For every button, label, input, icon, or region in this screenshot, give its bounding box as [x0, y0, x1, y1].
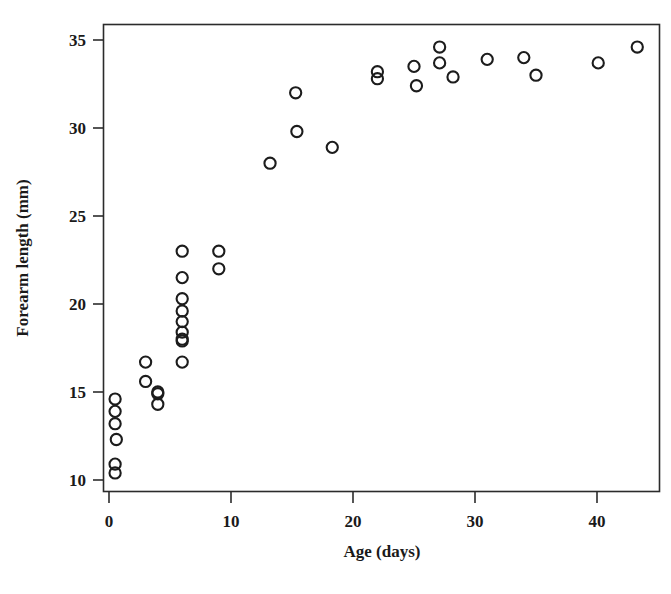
scatter-plot-figure: 35 30 25 20 15 10 0 10 20 30 40 Age (day…	[0, 0, 671, 594]
y-tick-label-20: 20	[69, 295, 86, 314]
x-tick-label-10: 10	[223, 512, 240, 531]
x-tick-label-20: 20	[345, 512, 362, 531]
figure-background	[0, 0, 671, 594]
x-axis-title: Age (days)	[344, 542, 421, 561]
x-tick-label-30: 30	[467, 512, 484, 531]
y-axis-title: Forearm length (mm)	[13, 179, 32, 336]
x-tick-label-40: 40	[589, 512, 606, 531]
y-tick-label-35: 35	[69, 31, 86, 50]
y-tick-label-25: 25	[69, 207, 86, 226]
y-tick-label-10: 10	[69, 471, 86, 490]
y-tick-label-30: 30	[69, 119, 86, 138]
x-tick-label-0: 0	[105, 512, 114, 531]
y-tick-label-15: 15	[69, 383, 86, 402]
